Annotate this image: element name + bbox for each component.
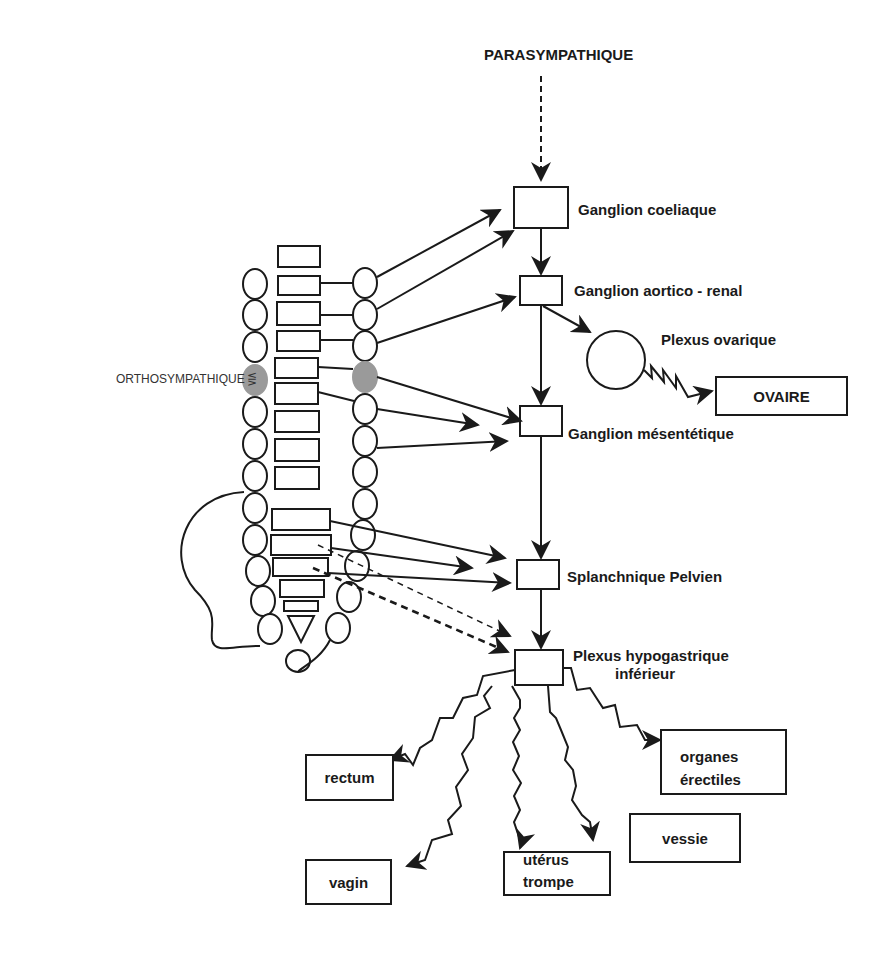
rectum-box: rectum xyxy=(305,754,394,801)
hypogastric-zigzag-arrows xyxy=(390,668,660,866)
ovaire-label: OVAIRE xyxy=(753,388,809,405)
right-sympathetic-chain xyxy=(326,268,377,643)
ganglion-mesentetique-label: Ganglion mésentétique xyxy=(568,426,734,443)
diagram-canvas xyxy=(0,0,896,955)
vessie-label: vessie xyxy=(662,830,708,847)
rami-connectors xyxy=(318,283,354,401)
parasympathique-label: PARASYMPATHIQUE xyxy=(484,47,633,64)
ovarique-zigzag-arrow xyxy=(644,366,712,397)
zigzag-to-uterus xyxy=(512,686,522,848)
vagin-box: vagin xyxy=(305,859,392,905)
ovaire-box: OVAIRE xyxy=(715,376,848,416)
ganglion-aortico-renal-label: Ganglion aortico - renal xyxy=(574,283,742,300)
trompe-label: trompe xyxy=(523,871,609,893)
organes-erectiles-box: organes érectiles xyxy=(660,729,787,795)
splanchnique-pelvien-label: Splanchnique Pelvien xyxy=(567,569,722,586)
plexus-ovarique-label: Plexus ovarique xyxy=(661,332,776,349)
vertebrae xyxy=(271,246,331,642)
plexus-hypogastrique-label-line2: inférieur xyxy=(615,666,675,683)
ganglion-coeliaque-label: Ganglion coeliaque xyxy=(578,202,716,219)
zigzag-to-vessie xyxy=(548,686,593,840)
ganglion-aortico-renal-box xyxy=(520,276,562,305)
plexus-hypogastrique-box xyxy=(515,650,563,685)
zigzag-to-vagin xyxy=(407,686,492,866)
zigzag-to-rectum xyxy=(390,670,515,765)
organes-label: organes xyxy=(680,745,785,768)
uterus-label: utérus xyxy=(523,849,609,871)
vagin-label: vagin xyxy=(329,874,368,891)
orthosympathique-label: ORTHOSYMPATHIQUE⋚ xyxy=(116,373,257,386)
splanchnique-pelvien-box xyxy=(517,560,559,589)
ganglion-coeliaque-box xyxy=(514,187,568,228)
erectiles-label: érectiles xyxy=(680,768,785,791)
orthosympathique-text: ORTHOSYMPATHIQUE xyxy=(116,372,245,386)
uterus-trompe-box: utérus trompe xyxy=(503,851,611,896)
rectum-label: rectum xyxy=(324,769,374,786)
ganglion-mesentetique-box xyxy=(520,406,562,436)
plexus-ovarique-circle xyxy=(587,331,645,389)
plexus-hypogastrique-label-line1: Plexus hypogastrique xyxy=(573,648,729,665)
vessie-box: vessie xyxy=(629,813,741,863)
bracket-icon: ⋚ xyxy=(247,372,257,386)
coccyx xyxy=(286,650,310,672)
